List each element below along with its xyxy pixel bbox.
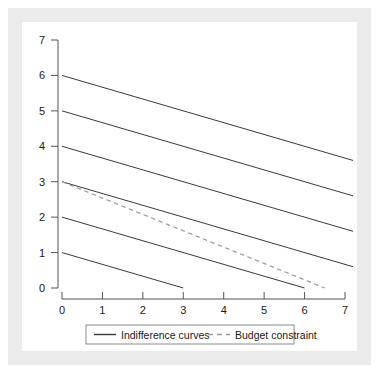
- budget-constraint-line: [62, 182, 325, 288]
- indifference-curve-1: [62, 253, 183, 288]
- x-axis-label-3: 3: [180, 304, 186, 316]
- y-axis: 7 6 5 4 3 2 1 0: [39, 34, 58, 294]
- x-axis-label-7: 7: [342, 304, 348, 316]
- data-series-layer: [62, 75, 353, 288]
- x-axis-label-1: 1: [99, 304, 105, 316]
- figure-plot-plate: 7 6 5 4 3 2 1 0: [22, 22, 357, 351]
- indifference-curve-4: [62, 146, 353, 231]
- legend-label-indifference-curves: Indifference curves: [121, 329, 210, 341]
- legend[interactable]: Indifference curves Budget constraint: [86, 325, 317, 344]
- x-axis-label-4: 4: [221, 304, 227, 316]
- figure-root: 7 6 5 4 3 2 1 0: [0, 0, 379, 373]
- legend-label-budget-constraint: Budget constraint: [235, 329, 317, 341]
- indifference-curve-6: [62, 75, 353, 160]
- indifference-curve-chart: 7 6 5 4 3 2 1 0: [22, 22, 357, 351]
- y-axis-label-1: 1: [39, 247, 45, 259]
- y-axis-label-0: 0: [39, 282, 45, 294]
- y-axis-label-5: 5: [39, 105, 45, 117]
- x-axis-label-0: 0: [59, 304, 65, 316]
- x-axis-label-5: 5: [261, 304, 267, 316]
- indifference-curve-2: [62, 217, 305, 288]
- y-axis-label-2: 2: [39, 211, 45, 223]
- y-axis-label-4: 4: [39, 140, 45, 152]
- y-axis-label-6: 6: [39, 69, 45, 81]
- x-axis: 0 1 2 3 4 5 6 7: [59, 292, 348, 316]
- x-axis-label-2: 2: [140, 304, 146, 316]
- y-axis-label-3: 3: [39, 176, 45, 188]
- indifference-curve-5: [62, 111, 353, 196]
- indifference-curve-3: [62, 182, 353, 267]
- y-axis-label-7: 7: [39, 34, 45, 46]
- x-axis-label-6: 6: [302, 304, 308, 316]
